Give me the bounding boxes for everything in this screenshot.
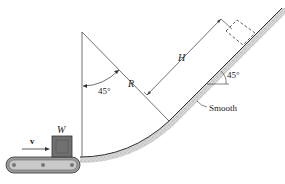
extension-line xyxy=(221,19,232,29)
height-label: H xyxy=(177,52,186,63)
extension-line xyxy=(144,92,147,95)
arrowhead-icon xyxy=(45,147,50,151)
surface-line xyxy=(80,8,282,157)
velocity-label: v xyxy=(30,136,35,146)
arrowhead-icon xyxy=(83,84,87,88)
angle-arc-left xyxy=(83,70,119,86)
block-on-curved-incline-diagram: v W 45° R H 45° Smooth xyxy=(0,0,285,184)
ground-surface xyxy=(80,8,285,163)
radius-label: R xyxy=(127,78,134,89)
conveyor-belt xyxy=(6,157,80,173)
block-w xyxy=(52,136,72,157)
angle-left-label: 45° xyxy=(98,86,111,96)
arrowhead-icon xyxy=(114,70,119,74)
angle-right-label: 45° xyxy=(227,70,240,80)
smooth-label: Smooth xyxy=(209,103,238,113)
smooth-leader-line xyxy=(197,101,207,107)
weight-label: W xyxy=(57,124,67,135)
radius-line xyxy=(82,32,169,121)
